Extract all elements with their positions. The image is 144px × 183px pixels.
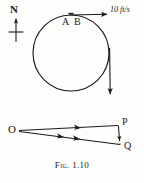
vector-OQ (19, 132, 120, 145)
segment-QO-closure (120, 144, 121, 145)
vector-OP (19, 126, 118, 131)
vector-OQ-arrowhead-2 (73, 135, 80, 140)
compass-north-arrow-icon (9, 19, 24, 43)
velocity-vector-at-A (70, 14, 107, 15)
point-label-q: Q (124, 141, 131, 151)
velocity-magnitude-label: 10 ft/s (110, 6, 130, 14)
figure-caption: Fig. 1.10 (0, 160, 144, 170)
vector-OQ-arrowhead-1 (57, 133, 64, 138)
figure-drawing-canvas (0, 0, 144, 183)
compass-north-label: N (10, 4, 18, 15)
vector-triangle-OPQ (19, 125, 120, 145)
figure-1-10: N A B 10 ft/s O P Q Fig. 1.10 (0, 0, 144, 183)
point-label-b: B (74, 17, 81, 27)
circular-path (33, 15, 109, 91)
point-label-o: O (8, 124, 16, 135)
vector-PQ (118, 126, 119, 142)
point-label-a: A (62, 17, 69, 27)
figure-caption-prefix: Fig. (55, 160, 70, 170)
point-label-p: P (122, 117, 128, 127)
figure-caption-number: 1.10 (72, 160, 89, 170)
velocity-vector-at-B (110, 48, 111, 94)
